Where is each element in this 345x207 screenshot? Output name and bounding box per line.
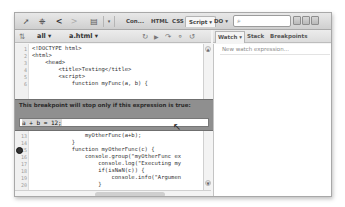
line-number: 6 bbox=[15, 81, 27, 87]
step-out-icon[interactable]: ↺ bbox=[189, 30, 195, 43]
watch-panel: New watch expression... bbox=[213, 44, 332, 197]
rerun-icon[interactable]: ↻ bbox=[142, 30, 148, 43]
scroll-down-icon[interactable]: ▼ bbox=[205, 180, 211, 186]
code-line: if(isNaN(c)) { bbox=[32, 167, 145, 173]
close-button[interactable] bbox=[311, 16, 319, 25]
continue-icon[interactable]: ▶ bbox=[154, 30, 159, 43]
code-line: } bbox=[32, 139, 75, 145]
select-element-icon[interactable]: ⎈ bbox=[37, 15, 47, 28]
inspect-icon[interactable]: ➚ bbox=[21, 15, 31, 28]
main-toolbar: ➚ ⎈ < > ▤ ▾ Con... HTML CSS Script ▾ DO … bbox=[15, 13, 331, 30]
breakpoint-message: This breakpoint will stop only if this e… bbox=[19, 102, 211, 109]
code-line: function myFunc(a, b) { bbox=[32, 80, 148, 86]
detach-button[interactable] bbox=[302, 16, 310, 25]
code-line: } bbox=[32, 181, 102, 187]
code-line: <head> bbox=[32, 59, 65, 65]
tab-breakpoints[interactable]: Breakpoints bbox=[270, 30, 307, 43]
filter-dropdown[interactable]: all ▾ bbox=[37, 30, 51, 43]
window-controls bbox=[293, 16, 319, 26]
step-into-icon[interactable]: ⚬ bbox=[177, 30, 183, 43]
line-number: 4 bbox=[15, 67, 27, 73]
breakpoint-toggle-icon[interactable]: ⇅ bbox=[19, 30, 25, 43]
breakpoint-marker-icon[interactable] bbox=[16, 147, 23, 154]
conditional-breakpoint-popup: This breakpoint will stop only if this e… bbox=[14, 99, 213, 131]
line-number: 1 bbox=[15, 46, 27, 52]
file-dropdown[interactable]: a.html ▾ bbox=[69, 30, 98, 43]
search-icon: ⌕ bbox=[237, 16, 241, 27]
step-over-icon[interactable]: ↷ bbox=[165, 30, 171, 43]
line-number: 14 bbox=[15, 140, 27, 146]
code-line: <title>Testing</title> bbox=[32, 66, 131, 72]
code-line: <!DOCTYPE html> bbox=[32, 45, 82, 51]
tab-console[interactable]: Con... bbox=[123, 16, 147, 27]
forward-icon[interactable]: > bbox=[70, 15, 78, 28]
tab-dom[interactable]: DO ▾ bbox=[211, 16, 231, 27]
tab-html[interactable]: HTML bbox=[148, 16, 171, 27]
line-number: 20 bbox=[15, 182, 27, 188]
scroll-up-icon[interactable]: ▲ bbox=[205, 46, 211, 52]
line-number: 3 bbox=[15, 60, 27, 66]
line-number: 19 bbox=[15, 175, 27, 181]
line-number: 13 bbox=[15, 133, 27, 139]
side-panel-tabs: Watch ▾ Stack Breakpoints bbox=[213, 30, 332, 43]
tab-watch[interactable]: Watch ▾ bbox=[215, 31, 245, 43]
line-number: 17 bbox=[15, 161, 27, 167]
code-line: <script> bbox=[32, 73, 85, 79]
code-line: function myOtherFunc(c) { bbox=[32, 146, 155, 152]
code-line: <html> bbox=[32, 52, 52, 58]
search-input[interactable]: ⌕ bbox=[233, 15, 291, 27]
line-number: 18 bbox=[15, 168, 27, 174]
back-icon[interactable]: < bbox=[55, 15, 63, 28]
new-watch-expression[interactable]: New watch expression... bbox=[222, 45, 289, 53]
line-number: 2 bbox=[15, 53, 27, 59]
menu-icon[interactable]: ▤ bbox=[89, 15, 99, 28]
minimize-button[interactable] bbox=[293, 16, 301, 25]
code-line: console.group("myOtherFunc ex bbox=[32, 153, 181, 159]
code-line: console.log("Executing my bbox=[32, 160, 181, 166]
code-line: myOtherFunc(a+b); bbox=[32, 132, 141, 138]
condition-text: a + b = 12; bbox=[22, 119, 62, 126]
tab-stack[interactable]: Stack bbox=[247, 30, 264, 43]
line-number: 16 bbox=[15, 154, 27, 160]
script-toolbar: ⇅ all ▾ a.html ▾ ↻ ▶ ↷ ⚬ ↺ bbox=[15, 30, 211, 43]
horizontal-scrollbar[interactable] bbox=[15, 190, 211, 197]
scroll-thumb[interactable] bbox=[95, 192, 165, 197]
line-number: 5 bbox=[15, 74, 27, 80]
code-line: console.info("Argumen bbox=[32, 174, 181, 180]
dropdown-icon[interactable]: ▾ bbox=[105, 15, 113, 28]
firebug-window: ➚ ⎈ < > ▤ ▾ Con... HTML CSS Script ▾ DO … bbox=[14, 12, 332, 197]
mouse-cursor-icon: ↖ bbox=[173, 121, 181, 132]
